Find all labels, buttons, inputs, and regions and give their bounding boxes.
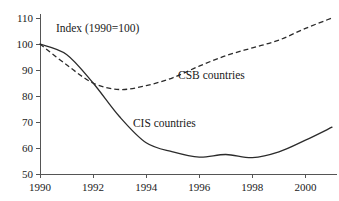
y-axis: 5060708090100110 xyxy=(17,12,41,180)
x-tick-label: 2000 xyxy=(294,181,317,193)
x-tick-label: 1996 xyxy=(188,181,211,193)
x-tick-label: 1994 xyxy=(135,181,158,193)
series-label-csb: CSB countries xyxy=(178,69,245,81)
x-tick-label: 1992 xyxy=(82,181,104,193)
x-axis: 199019921994199619982000 xyxy=(29,174,337,193)
y-tick-label: 110 xyxy=(17,12,34,24)
x-tick-label: 1998 xyxy=(241,181,264,193)
x-tick-label: 1990 xyxy=(29,181,52,193)
chart-container: 5060708090100110 19901992199419961998200… xyxy=(0,0,339,201)
y-tick-label: 70 xyxy=(22,116,34,128)
y-tick-label: 60 xyxy=(22,142,34,154)
y-tick-label: 50 xyxy=(22,168,34,180)
series-label-cis: CIS countries xyxy=(133,117,196,129)
chart-title: Index (1990=100) xyxy=(56,22,140,35)
line-chart: 5060708090100110 19901992199419961998200… xyxy=(0,0,339,201)
y-tick-label: 100 xyxy=(17,38,34,50)
y-tick-label: 90 xyxy=(22,64,34,76)
x-tick-group: 199019921994199619982000 xyxy=(29,174,317,193)
series-group xyxy=(40,18,332,158)
y-tick-group: 5060708090100110 xyxy=(17,12,41,180)
series-line-cis xyxy=(40,44,332,158)
y-tick-label: 80 xyxy=(22,90,34,102)
